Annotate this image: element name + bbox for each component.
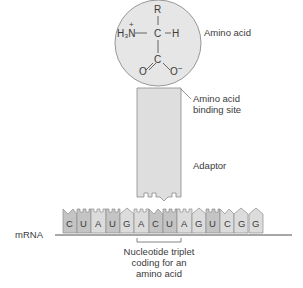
binding-site-label: Amino acid binding site: [193, 93, 241, 115]
nucleotide: G: [123, 218, 130, 229]
formula-o-left: O: [139, 66, 147, 77]
triplet-line1: Nucleotide triplet: [104, 246, 214, 257]
formula-plus: +: [129, 19, 134, 30]
nucleotide: A: [181, 218, 187, 229]
nucleotide: C: [152, 218, 159, 229]
nucleotide: A: [95, 218, 101, 229]
nucleotide: U: [80, 218, 87, 229]
nucleotide: U: [209, 218, 216, 229]
adaptor-label: Adaptor: [193, 160, 226, 171]
nucleotide: U: [166, 218, 173, 229]
binding-site-line1: Amino acid: [193, 93, 241, 104]
nucleotide: C: [66, 218, 73, 229]
mrna-label: mRNA: [15, 229, 43, 240]
formula-o-right: O: [170, 66, 178, 77]
triplet-line3: amino acid: [104, 268, 214, 279]
nucleotide-blocks: [63, 208, 263, 233]
triplet-bracket: [137, 238, 181, 242]
formula-h: H: [172, 28, 179, 39]
triplet-line2: coding for an: [104, 257, 214, 268]
formula-c-alpha: C: [154, 28, 161, 39]
binding-site-leader: [181, 89, 191, 99]
nucleotide: G: [195, 218, 202, 229]
nucleotide: G: [252, 218, 259, 229]
nucleotide: G: [238, 218, 245, 229]
nucleotide: C: [224, 218, 231, 229]
formula-r: R: [154, 4, 161, 15]
adaptor-shape: [137, 88, 181, 201]
diagram-canvas: [0, 0, 303, 288]
binding-site-line2: binding site: [193, 104, 241, 115]
nucleotide: U: [109, 218, 116, 229]
triplet-label: Nucleotide triplet coding for an amino a…: [104, 246, 214, 279]
formula-minus: −: [178, 63, 183, 74]
amino-acid-label: Amino acid: [204, 27, 251, 38]
formula-c-carboxyl: C: [154, 54, 161, 65]
nucleotide: A: [138, 218, 144, 229]
